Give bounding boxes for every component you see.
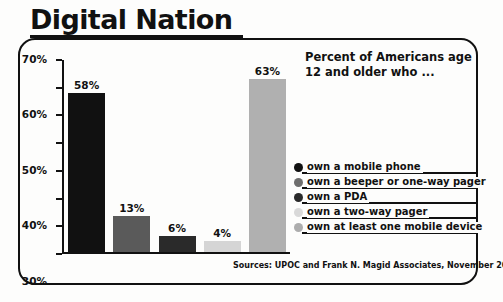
- page-title: Digital Nation: [30, 6, 243, 34]
- bar[interactable]: 13%: [113, 216, 150, 252]
- legend-item[interactable]: own a PDA: [294, 190, 478, 205]
- legend-label: own a two-way pager: [307, 207, 427, 218]
- bar-slot: 6%: [159, 60, 196, 252]
- chart-page: Digital Nation 70%60%50%40%30%20%10%0 58…: [0, 0, 503, 302]
- legend-swatch-icon: [294, 193, 303, 202]
- bar[interactable]: 63%: [249, 79, 286, 252]
- y-tick: 30%: [56, 170, 62, 172]
- bar[interactable]: 6%: [159, 236, 196, 252]
- bar[interactable]: 4%: [204, 241, 241, 252]
- y-tick-label: 30%: [22, 275, 47, 287]
- source-note: Sources: UPOC and Frank N. Magid Associa…: [233, 261, 503, 270]
- legend-swatch-icon: [294, 223, 303, 232]
- y-tick: 0: [56, 253, 62, 255]
- bar-value-label: 63%: [255, 65, 280, 77]
- bar-slot: 63%: [249, 60, 286, 252]
- x-axis-line: [62, 252, 290, 254]
- bar-value-label: 58%: [74, 79, 99, 91]
- title-underline: [30, 35, 243, 38]
- legend-label-wrap: own a PDA: [307, 192, 369, 203]
- bar-slot: 13%: [113, 60, 150, 252]
- legend-label-wrap: own a mobile phone: [307, 162, 423, 173]
- y-tick: 20%: [56, 198, 62, 200]
- bar[interactable]: 58%: [68, 93, 105, 252]
- chart-title-block: Digital Nation: [30, 6, 243, 38]
- legend-label: own a PDA: [307, 192, 367, 203]
- legend-swatch-icon: [294, 163, 303, 172]
- bar-slot: 58%: [68, 60, 105, 252]
- y-tick: 50%: [56, 114, 62, 116]
- y-tick: 40%: [56, 142, 62, 144]
- legend-swatch-icon: [294, 208, 303, 217]
- y-tick-label: 70%: [22, 53, 47, 65]
- y-tick-label: 60%: [22, 108, 47, 120]
- bar-value-label: 6%: [168, 222, 186, 234]
- panel-heading: Percent of Americans age 12 and older wh…: [305, 50, 473, 80]
- y-tick-label: 40%: [22, 219, 47, 231]
- bar-value-label: 4%: [213, 227, 231, 239]
- legend-item[interactable]: own at least one mobile device: [294, 220, 478, 235]
- chart-legend: own a mobile phoneown a beeper or one-wa…: [294, 160, 478, 235]
- legend-label: own at least one mobile device: [307, 222, 482, 233]
- y-tick-label: 50%: [22, 164, 47, 176]
- legend-label: own a beeper or one-way pager: [307, 177, 486, 188]
- bar-slot: 4%: [204, 60, 241, 252]
- bar-group: 58%13%6%4%63%: [64, 60, 290, 252]
- y-tick: 10%: [56, 225, 62, 227]
- bar-value-label: 13%: [119, 202, 144, 214]
- plot-area: 70%60%50%40%30%20%10%0 58%13%6%4%63%: [62, 60, 290, 254]
- legend-swatch-icon: [294, 178, 303, 187]
- y-tick: 70%: [56, 59, 62, 61]
- legend-label-wrap: own a beeper or one-way pager: [307, 177, 488, 188]
- y-tick: 60%: [56, 87, 62, 89]
- legend-label-wrap: own at least one mobile device: [307, 222, 484, 233]
- legend-item[interactable]: own a two-way pager: [294, 205, 478, 220]
- legend-label-wrap: own a two-way pager: [307, 207, 429, 218]
- legend-item[interactable]: own a mobile phone: [294, 160, 478, 175]
- legend-label: own a mobile phone: [307, 162, 421, 173]
- legend-item[interactable]: own a beeper or one-way pager: [294, 175, 478, 190]
